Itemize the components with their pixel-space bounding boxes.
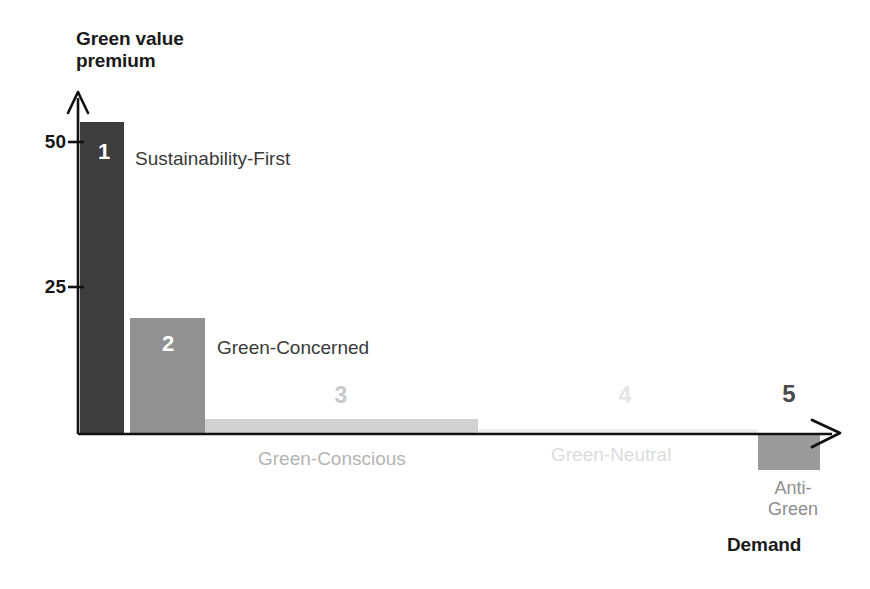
- segment-number-1: 1: [84, 139, 124, 165]
- green-value-premium-chart: Green value premium Demand 50 25 1 2 3 4…: [0, 0, 870, 589]
- y-tick-label-50: 50: [22, 131, 66, 153]
- segment-number-2: 2: [148, 331, 188, 357]
- segment-number-3: 3: [319, 382, 363, 409]
- segment-label-anti-green: Anti- Green: [762, 478, 824, 520]
- segment-number-5: 5: [767, 380, 811, 408]
- x-axis-title: Demand: [727, 534, 801, 556]
- segment-label-green-concerned: Green-Concerned: [217, 337, 369, 359]
- y-tick-label-25: 25: [22, 276, 66, 298]
- chart-canvas: [0, 0, 870, 589]
- bar-segment-3: [205, 419, 478, 434]
- segment-label-green-conscious: Green-Conscious: [258, 448, 406, 470]
- segment-label-green-neutral: Green-Neutral: [551, 444, 671, 466]
- bar-series: [80, 122, 820, 470]
- segment-label-sustainability-first: Sustainability-First: [135, 148, 290, 170]
- bar-segment-1: [80, 122, 124, 434]
- y-axis-title: Green value premium: [76, 28, 184, 73]
- bar-segment-5: [758, 434, 820, 470]
- segment-number-4: 4: [603, 382, 647, 409]
